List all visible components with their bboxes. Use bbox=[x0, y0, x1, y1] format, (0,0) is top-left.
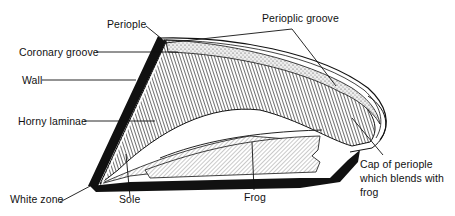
label-wall: Wall bbox=[22, 74, 42, 87]
label-cap-of-periople-line2: which blends with bbox=[360, 172, 444, 185]
label-cap-of-periople-line3: frog bbox=[360, 186, 379, 199]
hoof-diagram: Periople Perioplic groove Coronary groov… bbox=[0, 0, 455, 216]
label-cap-of-periople-line1: Cap of periople bbox=[360, 158, 433, 171]
label-white-zone: White zone bbox=[10, 193, 64, 206]
label-sole: Sole bbox=[119, 193, 140, 206]
label-coronary-groove: Coronary groove bbox=[19, 46, 99, 59]
label-frog: Frog bbox=[244, 191, 266, 204]
label-perioplic-groove: Perioplic groove bbox=[262, 12, 339, 25]
label-horny-laminae: Horny laminae bbox=[18, 115, 87, 128]
label-periople: Periople bbox=[107, 18, 146, 31]
